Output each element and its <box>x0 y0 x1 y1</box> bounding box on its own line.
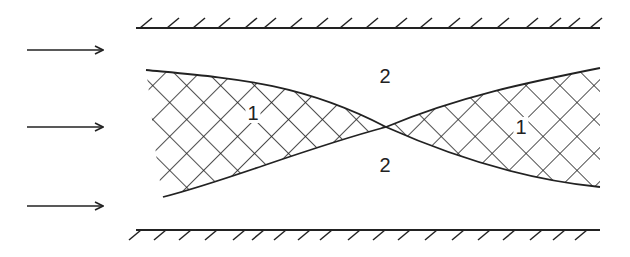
region-1-right-label: 1 <box>513 117 528 137</box>
top-wall <box>136 18 602 28</box>
channel-flow-diagram: 1 1 2 2 <box>0 0 630 257</box>
bottom-wall <box>129 230 600 240</box>
region-1-left-lobe <box>146 70 386 197</box>
region-2-bottom-label: 2 <box>379 155 390 175</box>
region-2-top-label: 2 <box>379 66 390 86</box>
region-1-right-lobe <box>386 68 600 187</box>
region-1-left-label: 1 <box>245 103 260 123</box>
